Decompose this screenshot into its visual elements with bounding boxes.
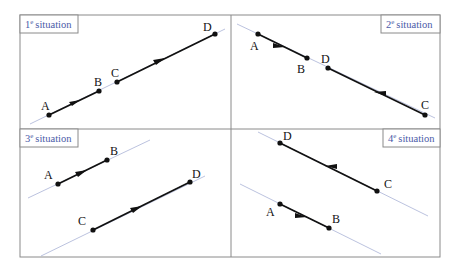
label-D: D [203,20,212,34]
point-B [326,225,331,230]
vector-CD [328,68,425,115]
label-A: A [250,39,259,53]
label-A: A [266,205,275,219]
point-B [104,157,109,162]
panel-2: 2esituation A B D C [237,15,440,118]
label-D: D [321,52,330,66]
point-D [325,65,330,70]
point-C [114,79,119,84]
panel-4: 4esituation D C A B [240,129,440,254]
vector-AB [280,204,329,228]
vector-CD [117,34,215,82]
label-C: C [111,66,119,80]
panel-1: 1esituation A B C D [20,15,225,124]
vector-CD [93,182,190,230]
label-B: B [94,75,102,89]
point-A [46,112,51,117]
point-C [374,188,379,193]
label-C: C [421,98,429,112]
point-A [277,201,282,206]
label-B: B [332,212,340,226]
point-D [277,140,282,145]
label-C: C [78,214,86,228]
point-A [255,31,260,36]
label-C: C [384,177,392,191]
point-D [212,31,217,36]
label-A: A [44,168,53,182]
label-D: D [283,129,292,143]
panel-3: 3esituation A B C D [20,129,205,256]
vector-AB [258,34,307,58]
point-B [304,55,309,60]
vector-CD [280,143,377,191]
point-C [90,227,95,232]
vector-situations-diagram: 1esituation A B C D 2esituation A B D C [0,0,453,270]
label-A: A [41,99,50,113]
label-B: B [297,62,305,76]
label-D: D [192,167,201,181]
point-B [96,88,101,93]
point-A [55,181,60,186]
label-B: B [110,144,118,158]
point-C [422,112,427,117]
arrow-AB [75,170,87,177]
